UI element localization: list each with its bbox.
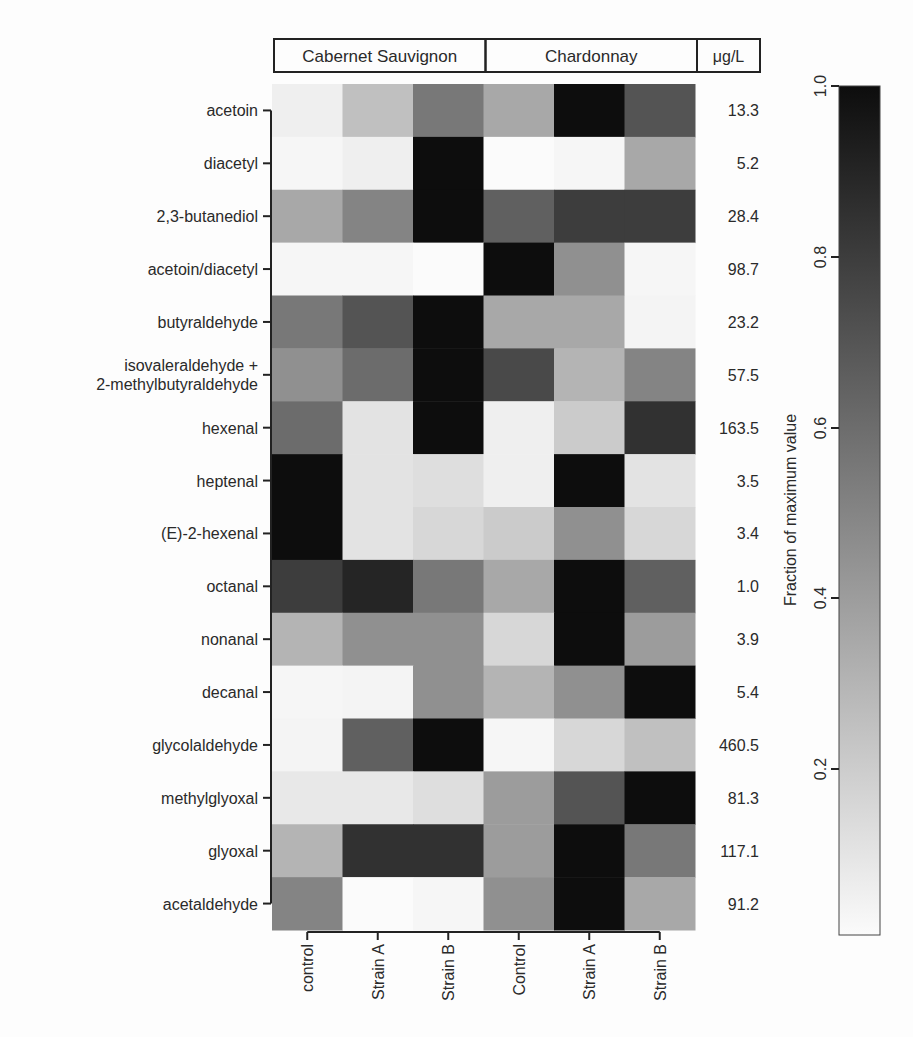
row-label: glycolaldehyde	[152, 737, 258, 754]
heatmap-cell	[554, 137, 625, 190]
colorbar-gradient	[839, 86, 880, 935]
heatmap-cell	[554, 560, 625, 613]
heatmap-cells	[272, 84, 696, 931]
column-group-header: Cabernet SauvignonChardonnayμg/L	[274, 39, 760, 72]
column-label: Strain A	[370, 944, 387, 1000]
heatmap-cell	[554, 454, 625, 507]
row-label: octanal	[206, 578, 258, 595]
heatmap-cell	[625, 666, 696, 719]
row-label: butyraldehyde	[157, 314, 258, 331]
max-value-label: 23.2	[728, 314, 759, 331]
heatmap-cell	[625, 190, 696, 243]
heatmap-cell	[343, 771, 414, 824]
heatmap-cell	[272, 296, 343, 349]
row-label: isovaleraldehyde +	[124, 357, 258, 374]
heatmap-cell	[484, 666, 555, 719]
heatmap-cell	[554, 877, 625, 930]
heatmap-cell	[625, 771, 696, 824]
heatmap-cell	[554, 190, 625, 243]
heatmap-cell	[272, 719, 343, 772]
column-group-label: Cabernet Sauvignon	[302, 47, 457, 66]
heatmap-cell	[625, 401, 696, 454]
heatmap-cell	[554, 666, 625, 719]
heatmap-cell	[413, 243, 484, 296]
heatmap-cell	[272, 666, 343, 719]
heatmap-cell	[343, 348, 414, 401]
max-value-label: 98.7	[728, 261, 759, 278]
heatmap-cell	[554, 296, 625, 349]
heatmap-cell	[272, 560, 343, 613]
heatmap-cell	[343, 560, 414, 613]
heatmap-cell	[413, 454, 484, 507]
row-label: decanal	[202, 684, 258, 701]
heatmap-cell	[413, 613, 484, 666]
heatmap-cell	[484, 190, 555, 243]
heatmap-cell	[554, 771, 625, 824]
colorbar-tick-label: 0.4	[812, 587, 829, 609]
heatmap-cell	[625, 137, 696, 190]
max-value-label: 163.5	[719, 420, 759, 437]
heatmap-cell	[272, 348, 343, 401]
heatmap-cell	[272, 507, 343, 560]
heatmap-cell	[554, 507, 625, 560]
heatmap-cell	[413, 877, 484, 930]
column-label: Strain B	[440, 944, 457, 1001]
heatmap-cell	[413, 84, 484, 137]
heatmap-cell	[554, 719, 625, 772]
colorbar-tick-label: 0.6	[812, 417, 829, 439]
row-label: heptenal	[197, 473, 258, 490]
row-label: glyoxal	[208, 843, 258, 860]
max-value-label: 81.3	[728, 790, 759, 807]
heatmap-cell	[343, 296, 414, 349]
heatmap-cell	[343, 137, 414, 190]
heatmap-cell	[413, 719, 484, 772]
heatmap-cell	[625, 507, 696, 560]
heatmap-cell	[413, 348, 484, 401]
heatmap-cell	[343, 824, 414, 877]
heatmap-cell	[272, 401, 343, 454]
column-label: Control	[511, 944, 528, 996]
row-label: acetoin/diacetyl	[148, 261, 258, 278]
row-label: hexenal	[202, 420, 258, 437]
heatmap-cell	[625, 243, 696, 296]
heatmap-cell	[272, 771, 343, 824]
heatmap-cell	[272, 824, 343, 877]
heatmap-cell	[272, 137, 343, 190]
heatmap-cell	[272, 190, 343, 243]
heatmap-cell	[484, 348, 555, 401]
column-group-label: Chardonnay	[545, 47, 638, 66]
column-label: control	[299, 944, 316, 992]
heatmap-cell	[554, 84, 625, 137]
max-value-label: 13.3	[728, 102, 759, 119]
max-value-label: 460.5	[719, 737, 759, 754]
max-value-label: 117.1	[720, 843, 759, 860]
heatmap-cell	[625, 84, 696, 137]
heatmap-cell	[272, 877, 343, 930]
heatmap-cell	[343, 719, 414, 772]
max-value-label: 3.5	[737, 473, 759, 490]
max-value-column: 13.35.228.498.723.257.5163.53.53.41.03.9…	[719, 102, 759, 912]
max-value-label: 5.4	[737, 684, 759, 701]
heatmap-cell	[413, 296, 484, 349]
row-label: 2,3-butanediol	[157, 208, 258, 225]
heatmap-cell	[484, 137, 555, 190]
row-label: methylglyoxal	[161, 790, 258, 807]
heatmap-cell	[625, 613, 696, 666]
heatmap-cell	[484, 243, 555, 296]
heatmap-cell	[484, 296, 555, 349]
colorbar-title: Fraction of maximum value	[782, 414, 799, 606]
heatmap-cell	[484, 454, 555, 507]
heatmap-cell	[484, 824, 555, 877]
column-label: Strain A	[581, 944, 598, 1000]
column-label: Strain B	[652, 944, 669, 1001]
heatmap-cell	[484, 719, 555, 772]
heatmap-cell	[484, 877, 555, 930]
heatmap-cell	[343, 877, 414, 930]
row-label: (E)-2-hexenal	[161, 525, 258, 542]
heatmap-cell	[343, 507, 414, 560]
heatmap-cell	[484, 401, 555, 454]
max-value-label: 3.4	[737, 525, 759, 542]
heatmap-cell	[343, 243, 414, 296]
heatmap-cell	[413, 824, 484, 877]
heatmap-cell	[413, 401, 484, 454]
